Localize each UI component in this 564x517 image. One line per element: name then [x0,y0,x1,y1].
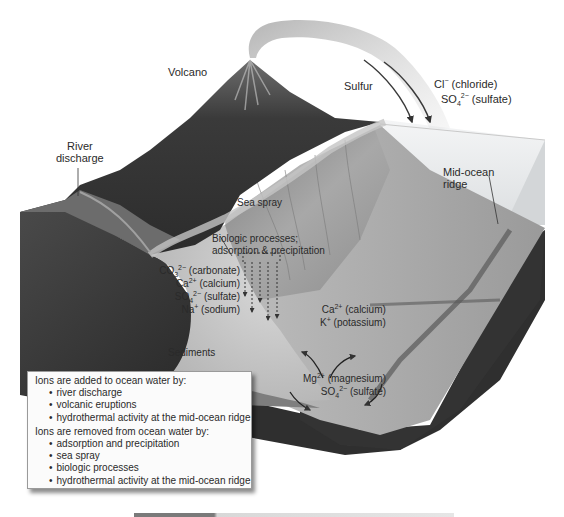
legend-item: hydrothermal activity at the mid-ocean r… [49,412,251,424]
legend-box: Ions are added to ocean water by: river … [27,371,252,489]
removed-ions-list: CO32− (carbonate) Ca2+ (calcium) SO42− (… [160,264,240,316]
ion-calcium-vent: Ca2+ (calcium) [320,303,386,316]
mid-ocean-ridge-label: Mid-ocean ridge [443,166,494,190]
ion-sulfate: SO42− (sulfate) [160,290,240,303]
ion-calcium: Ca2+ (calcium) [160,277,240,290]
legend-removed-list: adsorption and precipitation sea spray b… [35,438,251,487]
bottom-divider-bar [134,513,454,517]
legend-removed-heading: Ions are removed from ocean water by: [35,426,251,438]
sea-spray-label: Sea spray [237,197,282,209]
legend-added-heading: Ions are added to ocean water by: [35,375,251,387]
sulfur-label: Sulfur [344,80,373,92]
legend-item: biologic processes [49,462,251,474]
legend-item: adsorption and precipitation [49,438,251,450]
vent-out-ions: Ca2+ (calcium) K+ (potassium) [320,303,386,329]
ion-potassium-vent: K+ (potassium) [320,316,386,329]
chloride-label: Cl− (chloride) [434,78,497,90]
vent-in-ions: Mg2+ (magnesium) SO42− (sulfate) [303,372,386,398]
river-discharge-label: River discharge [56,140,104,164]
volcano-label: Volcano [168,66,207,78]
sulfate-air-label: SO42− (sulfate) [441,93,512,105]
legend-item: volcanic eruptions [49,399,251,411]
legend-item: river discharge [49,387,251,399]
sediments-label: Sediments [168,347,215,359]
ion-carbonate: CO32− (carbonate) [150,264,240,277]
ion-magnesium-vent: Mg2+ (magnesium) [303,372,386,385]
biologic-processes-label: Biologic processes; adsorption & precipi… [212,233,325,257]
ion-sodium: Na+ (sodium) [160,303,240,316]
legend-item: hydrothermal activity at the mid-ocean r… [49,475,251,487]
legend-item: sea spray [49,450,251,462]
ion-sulfate-vent: SO42− (sulfate) [303,385,386,398]
legend-added-list: river discharge volcanic eruptions hydro… [35,387,251,424]
